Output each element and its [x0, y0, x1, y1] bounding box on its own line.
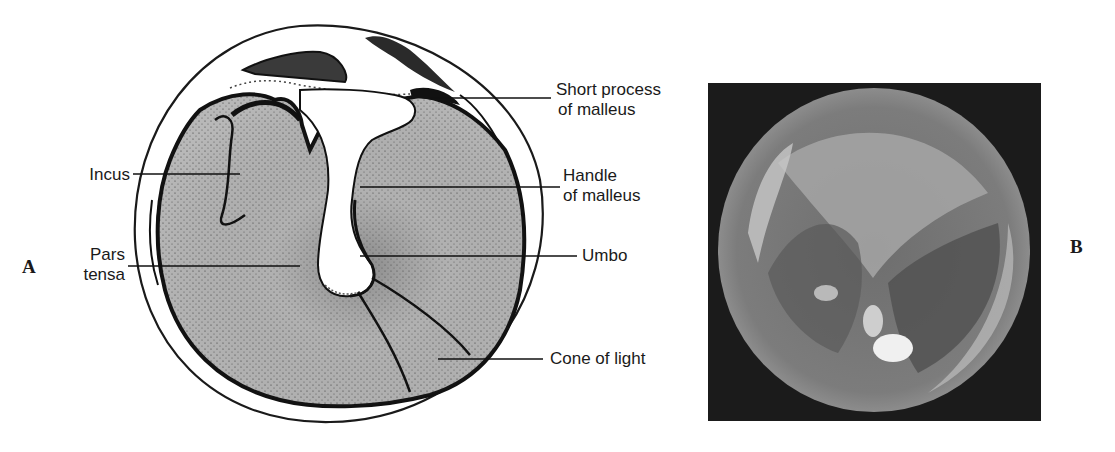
label-umbo: Umbo [582, 246, 627, 266]
label-incus: Incus [70, 165, 130, 185]
label-pars-tensa: Pars tensa [70, 245, 125, 285]
attic-dark-region [243, 52, 346, 82]
otoscope-photograph [708, 83, 1041, 421]
label-short-process-of-malleus: Short process of malleus [556, 80, 661, 120]
label-handle-of-malleus: Handle of malleus [563, 166, 640, 206]
photo-content [708, 83, 1041, 421]
panel-b-letter: B [1070, 236, 1083, 258]
label-cone-of-light: Cone of light [550, 349, 645, 369]
light-reflex [873, 334, 913, 362]
